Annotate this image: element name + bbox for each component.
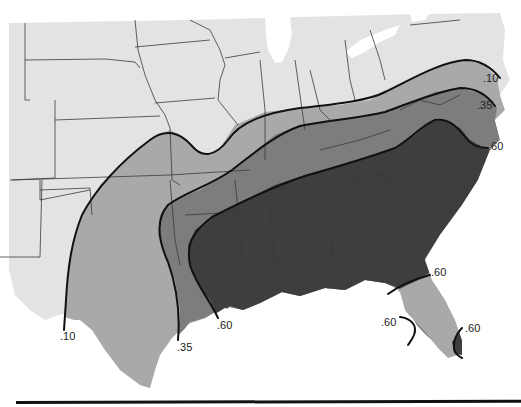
contour-label-060-gulf: .60 [217, 320, 232, 331]
contour-label-010-sw: .10 [60, 331, 75, 342]
contour-label-035-sw: .35 [177, 342, 192, 353]
contour-label-060-ne: .60 [488, 141, 503, 152]
contour-label-060-fl-north: .60 [431, 267, 446, 278]
contour-label-035-ne: .35 [477, 100, 492, 111]
contour-label-010-ne: .10 [483, 73, 498, 84]
contour-label-060-fl-west: .60 [381, 317, 396, 328]
contour-map [0, 0, 521, 407]
contour-label-060-fl-east: .60 [465, 323, 480, 334]
